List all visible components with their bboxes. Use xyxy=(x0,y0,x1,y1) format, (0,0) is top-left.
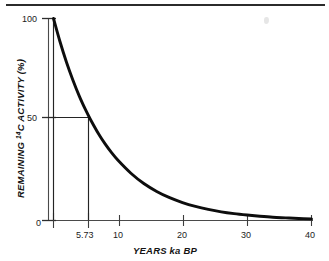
x-axis-title: YEARS ka BP xyxy=(133,245,197,256)
figure-container: 100 50 0 5.73 10 20 30 40 YEARS ka BP RE… xyxy=(0,0,329,261)
x-tick-label-5.73: 5.73 xyxy=(76,230,94,240)
y-axis-title: REMAINING 14C ACTIVITY (%) xyxy=(15,59,27,198)
y-tick-label-0: 0 xyxy=(36,218,41,228)
y-tick-label-50: 50 xyxy=(27,113,37,123)
x-tick-label-20: 20 xyxy=(177,230,187,240)
x-tick-label-40: 40 xyxy=(305,230,315,240)
decay-curve xyxy=(54,19,312,219)
y-axis-title-lead: REMAINING xyxy=(15,139,26,198)
y-axis-title-trail: C ACTIVITY (%) xyxy=(15,59,26,131)
x-tick-label-10: 10 xyxy=(113,230,123,240)
y-axis-title-superscript: 14 xyxy=(15,131,22,139)
x-tick-label-30: 30 xyxy=(241,230,251,240)
y-tick-label-100: 100 xyxy=(22,14,37,24)
decay-chart: 100 50 0 5.73 10 20 30 40 YEARS ka BP RE… xyxy=(0,0,329,261)
